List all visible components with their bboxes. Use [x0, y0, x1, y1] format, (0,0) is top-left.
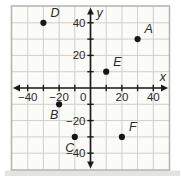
coordinate-plane: −40−20020404020−20−40xyABCDEF	[0, 0, 181, 182]
x-tick-label: −40	[18, 91, 38, 103]
y-tick-label: 40	[73, 17, 86, 29]
x-tick-label: 20	[116, 91, 129, 103]
point-label-E: E	[113, 55, 122, 69]
x-axis-label: x	[159, 70, 167, 84]
data-point-C	[72, 134, 78, 140]
data-point-F	[119, 134, 125, 140]
y-axis-label: y	[96, 6, 104, 20]
data-point-E	[103, 69, 109, 75]
card-shadow	[5, 171, 180, 177]
data-point-D	[40, 20, 46, 26]
x-tick-label: 0	[80, 91, 86, 103]
point-label-A: A	[144, 22, 153, 36]
y-tick-label: −20	[66, 115, 86, 127]
point-label-C: C	[65, 141, 75, 155]
x-tick-label: 40	[147, 91, 160, 103]
graph-image: −40−20020404020−20−40xyABCDEF	[0, 0, 181, 182]
data-point-A	[135, 36, 141, 42]
point-label-B: B	[50, 108, 58, 122]
x-tick-label: −20	[49, 91, 69, 103]
data-point-B	[56, 101, 62, 107]
y-tick-label: 20	[73, 49, 86, 61]
point-label-D: D	[50, 6, 59, 20]
